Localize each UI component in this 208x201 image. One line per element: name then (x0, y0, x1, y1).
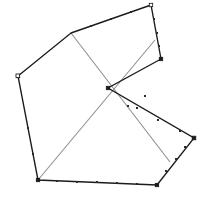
edge-tick (153, 18, 155, 20)
vertex-marker-group (16, 3, 196, 186)
polygon-outline-path (18, 5, 194, 185)
edge-tick (144, 95, 146, 97)
edge-tick (136, 107, 138, 109)
edge-tick (110, 18, 112, 20)
edge-tick (27, 127, 29, 129)
vertex-marker-bottom-right (36, 178, 39, 181)
edge-tick (175, 158, 177, 160)
edge-tick (96, 181, 98, 183)
edge-tick (90, 25, 92, 27)
edge-tick (130, 11, 132, 13)
edge-tick (184, 146, 186, 148)
polygon-figure (0, 0, 208, 201)
chord-b-line (38, 40, 155, 180)
vertex-marker-top-right (159, 57, 162, 60)
edge-tick (156, 32, 158, 34)
chord-a-line (71, 33, 170, 162)
edge-tick (136, 183, 138, 185)
figure-canvas (0, 0, 208, 201)
vertex-marker-top-left (149, 3, 152, 6)
edge-tick (157, 119, 159, 121)
vertex-marker-right-upper (106, 86, 109, 89)
edge-tick (158, 45, 160, 47)
edge-tick (179, 130, 181, 132)
edge-tick (76, 181, 78, 183)
vertex-marker-left (16, 74, 19, 77)
edge-tick (32, 153, 34, 155)
edge-tick (56, 180, 58, 182)
chord-group (38, 33, 170, 180)
edge-tick (127, 105, 129, 107)
vertex-marker-center-reflex (192, 136, 196, 140)
edge-tick (116, 182, 118, 184)
vertex-marker-right-lower (155, 183, 158, 186)
edge-tick (165, 170, 167, 172)
polygon-outline-group (18, 5, 194, 185)
